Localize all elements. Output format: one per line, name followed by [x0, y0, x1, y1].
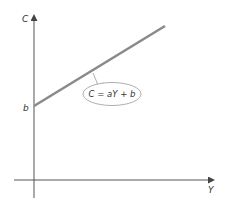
- x-axis-label: Y: [208, 185, 215, 195]
- equation-label: C = aY + b: [89, 89, 136, 99]
- intercept-label: b: [23, 103, 29, 113]
- equation-callout: C = aY + b: [83, 73, 141, 106]
- y-axis-label: C: [22, 14, 29, 24]
- consumption-function-chart: C Y b C = aY + b: [0, 0, 229, 210]
